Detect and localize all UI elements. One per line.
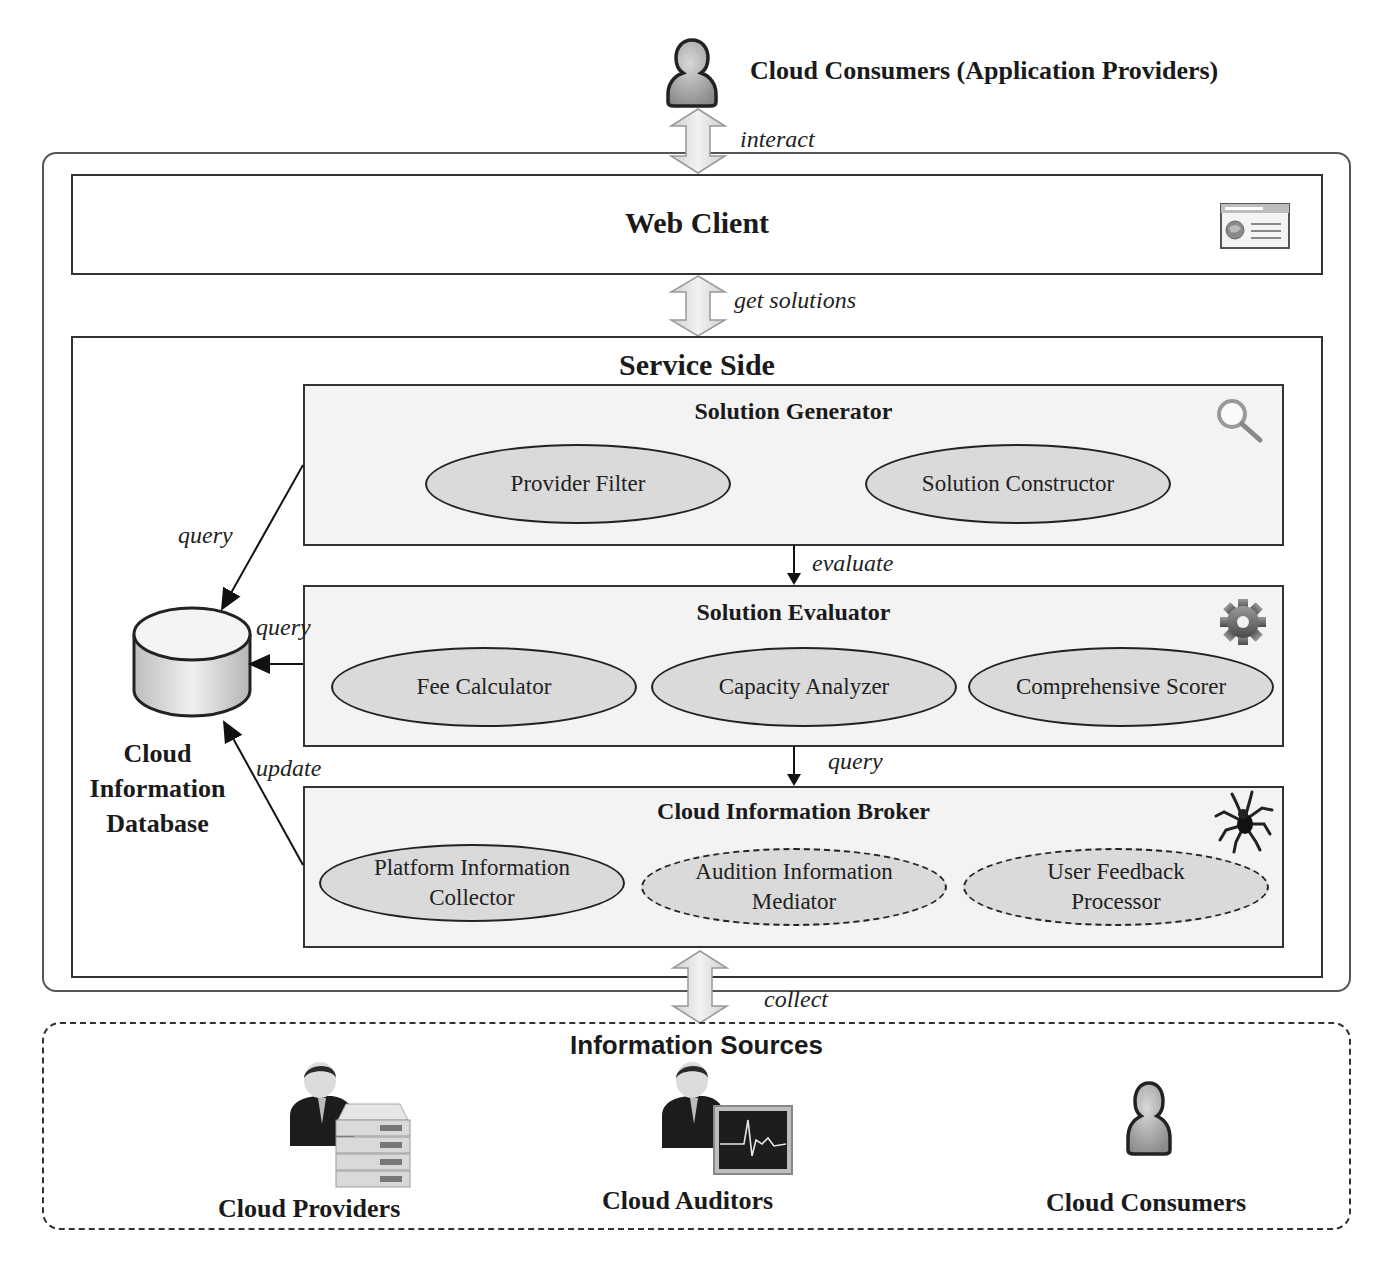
- collect-double-arrow: [670, 950, 730, 1024]
- cloud-auditors-label: Cloud Auditors: [602, 1186, 773, 1216]
- source-cloud-auditors[interactable]: Cloud Auditors: [600, 1060, 820, 1220]
- user-icon: [1124, 1080, 1174, 1156]
- cloud-providers-label: Cloud Providers: [218, 1194, 400, 1224]
- collect-label: collect: [764, 986, 828, 1013]
- cloud-consumers-label: Cloud Consumers: [1046, 1188, 1246, 1218]
- source-cloud-providers[interactable]: Cloud Providers: [200, 1060, 440, 1230]
- businessman-monitor-icon: [658, 1060, 798, 1180]
- source-cloud-consumers[interactable]: Cloud Consumers: [1040, 1076, 1280, 1226]
- update-broker-label: update: [256, 755, 321, 782]
- query-evaluator-label: query: [256, 614, 311, 641]
- query-generator-label: query: [178, 522, 233, 549]
- businessman-server-icon: [280, 1060, 420, 1192]
- information-sources-title: Information Sources: [44, 1030, 1349, 1061]
